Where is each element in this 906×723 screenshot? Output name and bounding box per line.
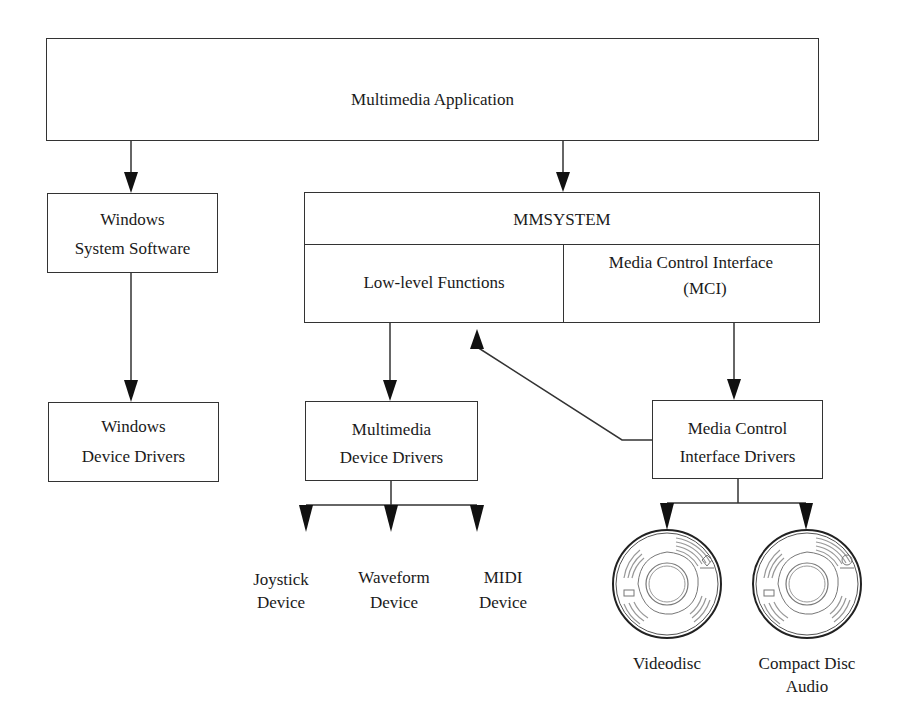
arrow-down-icon xyxy=(383,380,397,401)
joystick-device-label-1: Joystick xyxy=(246,568,316,592)
compact-disc-label-2: Audio xyxy=(737,675,877,699)
arrow-down-icon xyxy=(124,380,138,402)
windows-device-drivers-label-1: Windows xyxy=(49,415,218,439)
arrow-down-icon xyxy=(660,503,674,530)
midi-device-label-2: Device xyxy=(468,591,538,615)
waveform-device-label-1: Waveform xyxy=(352,566,436,590)
arrow-down-icon xyxy=(299,505,313,532)
arrow-down-icon xyxy=(727,379,741,400)
arrow-down-icon xyxy=(556,172,570,192)
arrow-down-icon xyxy=(124,172,138,193)
arrow-down-icon xyxy=(799,503,813,530)
arrow-up-icon xyxy=(470,329,484,349)
windows-system-software-label-2: System Software xyxy=(48,237,217,261)
windows-system-software-box: Windows System Software xyxy=(47,193,218,273)
multimedia-device-drivers-label-2: Device Drivers xyxy=(306,446,477,470)
joystick-device-label-2: Device xyxy=(246,591,316,615)
mci-label-1: Media Control Interface xyxy=(563,251,819,275)
arrow-down-icon xyxy=(470,505,484,532)
multimedia-device-drivers-box: Multimedia Device Drivers xyxy=(305,401,478,481)
arrow-down-icon xyxy=(384,505,398,532)
mci-drivers-box: Media Control Interface Drivers xyxy=(652,400,823,479)
mci-drivers-label-1: Media Control xyxy=(653,417,822,441)
midi-device-label-1: MIDI xyxy=(468,566,538,590)
mci-label-2: (MCI) xyxy=(605,277,805,301)
mmsystem-box: MMSYSTEM Low-level Functions Media Contr… xyxy=(304,192,820,323)
windows-system-software-label-1: Windows xyxy=(48,208,217,232)
multimedia-application-label: Multimedia Application xyxy=(47,88,818,112)
waveform-device-label-2: Device xyxy=(352,591,436,615)
multimedia-device-drivers-label-1: Multimedia xyxy=(306,418,477,442)
mmsystem-divider-h xyxy=(305,244,819,245)
compact-disc-label-1: Compact Disc xyxy=(737,652,877,676)
windows-device-drivers-label-2: Device Drivers xyxy=(49,445,218,469)
videodisc-label: Videodisc xyxy=(610,652,724,676)
low-level-functions-label: Low-level Functions xyxy=(305,271,563,295)
compact-disc-icon xyxy=(750,528,864,640)
mmsystem-title: MMSYSTEM xyxy=(305,208,819,232)
videodisc-icon xyxy=(610,528,724,640)
multimedia-application-box: Multimedia Application xyxy=(46,38,819,141)
windows-device-drivers-box: Windows Device Drivers xyxy=(48,402,219,482)
mci-drivers-label-2: Interface Drivers xyxy=(653,445,822,469)
